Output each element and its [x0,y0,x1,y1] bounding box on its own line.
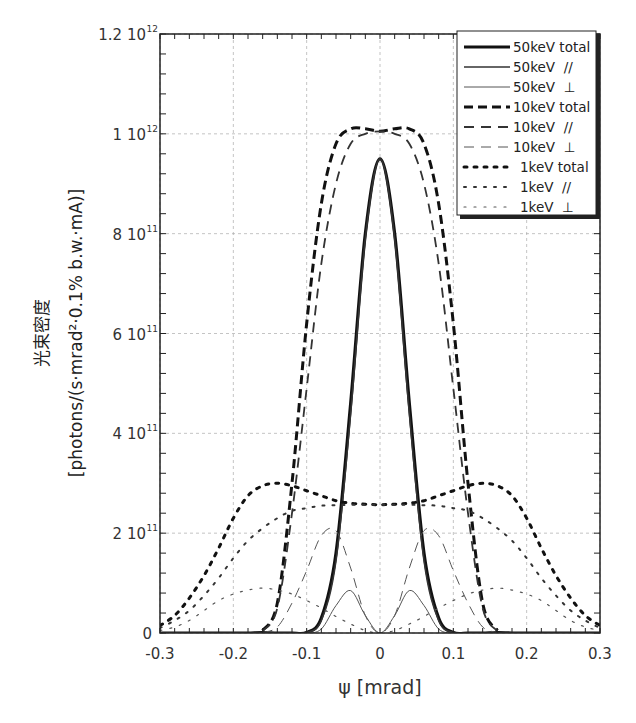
x-tick-label: 0 [375,645,385,663]
x-tick-label: 0.2 [515,645,539,663]
x-axis-label: ψ [mrad] [338,676,421,698]
legend-label: 1keV ⊥ [520,199,574,215]
y-tick-exponent: 11 [147,523,158,533]
y-tick-label: 6 10 [113,326,146,344]
y-tick-label: 1.2 10 [98,26,146,44]
x-tick-label: -0.2 [219,645,248,663]
y-tick-exponent: 11 [147,324,158,334]
legend-label: 1keV total [520,159,589,175]
y-tick-label: 4 10 [113,425,146,443]
legend-label: 10keV // [513,119,573,135]
x-tick-labels: -0.3-0.2-0.100.10.20.3 [145,645,612,663]
chart: -0.3-0.2-0.100.10.20.3 02 10114 10116 10… [0,0,636,723]
y-tick-label: 0 [142,625,152,643]
legend-label: 1keV // [520,179,572,195]
y-tick-label: 2 10 [113,525,146,543]
curve-1kev- [160,505,600,628]
legend: 50keV total50keV //50keV ⊥10keV total10k… [457,31,600,219]
y-axis-label-units: [photons/(s·mrad²·0.1% b.w.·mA)] [66,189,86,477]
y-tick-label: 1 10 [113,126,146,144]
legend-label: 10keV ⊥ [513,139,575,155]
x-tick-label: -0.1 [292,645,321,663]
legend-label: 50keV ⊥ [513,79,575,95]
y-tick-exponent: 11 [147,224,158,234]
y-tick-exponent: 11 [147,423,158,433]
y-tick-exponent: 12 [147,124,158,134]
x-tick-label: -0.3 [145,645,174,663]
x-tick-label: 0.1 [441,645,465,663]
y-axis-label-japanese: 光束密度 [32,299,52,367]
x-tick-label: 0.3 [588,645,612,663]
legend-label: 50keV // [513,59,573,75]
legend-label: 50keV total [513,39,590,55]
y-tick-exponent: 12 [147,24,158,34]
y-tick-labels: 02 10114 10116 10118 10111 10121.2 1012 [98,24,158,643]
y-tick-label: 8 10 [113,226,146,244]
legend-label: 10keV total [513,99,590,115]
